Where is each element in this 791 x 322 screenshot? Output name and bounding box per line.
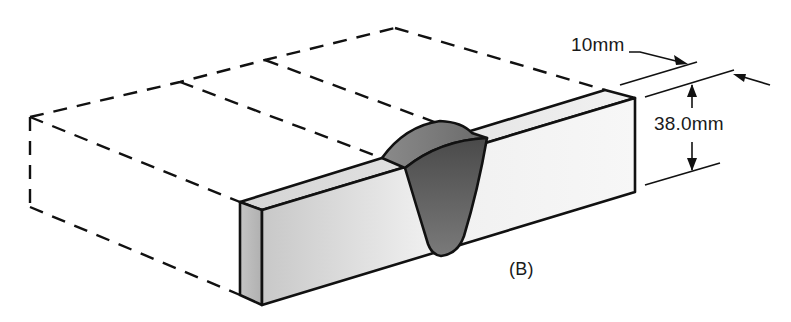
dashed-groove-edge-2 — [265, 60, 440, 124]
dashed-left-front-edge — [30, 117, 240, 202]
dimension-label-width: 10mm — [571, 34, 625, 56]
ext-line-38mm-bottom — [645, 163, 720, 185]
figure-label: (B) — [509, 259, 534, 280]
dashed-groove-edge-1 — [180, 82, 382, 158]
dashed-bottom-edge — [30, 207, 240, 295]
arrow-10mm-right-icon — [733, 74, 746, 82]
dashed-back-edge — [30, 28, 395, 117]
ext-line-10mm-front — [620, 62, 697, 85]
weld-diagram — [0, 0, 791, 322]
arrow-38mm-down-icon — [687, 158, 697, 171]
arrow-10mm-left-icon — [674, 55, 688, 65]
bar-end-face — [240, 202, 262, 305]
arrow-38mm-up-icon — [687, 84, 697, 97]
leader-10mm — [629, 52, 680, 62]
dimension-label-height: 38.0mm — [654, 113, 724, 135]
